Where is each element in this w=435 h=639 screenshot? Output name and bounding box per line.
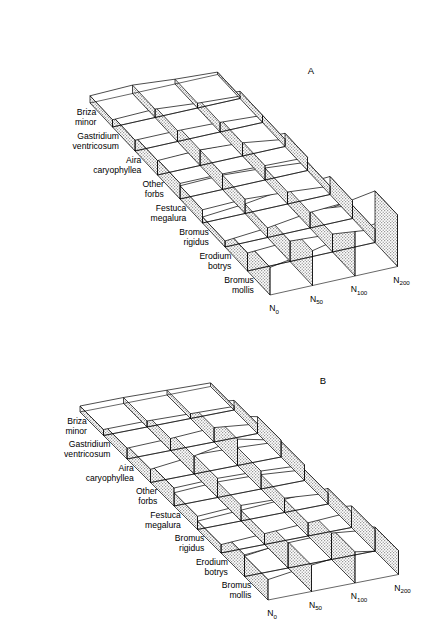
axis-tick-n100: N100: [351, 591, 368, 603]
species-label-bromus-mollis: Bromusmollis: [224, 275, 254, 295]
species-label-line1: Briza: [77, 107, 97, 117]
species-label-line1: Aira: [119, 463, 135, 473]
species-label-line1: Other: [136, 486, 158, 496]
species-label-line1: Festuca: [150, 510, 181, 520]
species-label-line1: Erodium: [199, 251, 231, 261]
species-label-bromus-mollis: Bromusmollis: [222, 580, 252, 600]
axis-tick-n200: N200: [394, 583, 411, 595]
axis-tick-n0: N0: [267, 608, 277, 620]
species-label-line1: Bromus: [222, 580, 252, 590]
band-baseline: [270, 267, 398, 296]
species-label-line2: rigidus: [184, 237, 209, 247]
panel-letter-a: A: [308, 65, 315, 76]
species-label-line2: rigidus: [179, 543, 204, 553]
species-label-erodium-botrys: Erodiumbotrys: [199, 251, 231, 271]
species-label-bromus-rigidus: Bromusrigidus: [175, 533, 205, 553]
panel-b-chart: BromusmollisErodiumbotrysBromusrigidusFe…: [0, 330, 435, 639]
species-label-line2: caryophyllea: [86, 473, 134, 483]
species-label-other-forbs: Otherforbs: [136, 486, 158, 506]
species-label-erodium-botrys: Erodiumbotrys: [196, 557, 228, 577]
species-label-aira-caryophyllea: Airacaryophyllea: [93, 155, 141, 175]
species-label-festuca-megalura: Festucamegalura: [145, 510, 181, 530]
species-label-line1: Gastridium: [77, 131, 119, 141]
species-label-line2: mollis: [232, 285, 254, 295]
species-label-line1: Bromus: [179, 227, 209, 237]
panel-a: BromusmollisErodiumbotrysBromusrigidusFe…: [0, 0, 435, 330]
species-label-briza-minor: Brizaminor: [75, 107, 97, 127]
axis-tick-subscript: 200: [400, 587, 411, 594]
axis-tick-n50: N50: [310, 294, 324, 306]
species-label-bromus-rigidus: Bromusrigidus: [179, 227, 209, 247]
axis-tick-subscript: 0: [275, 308, 279, 315]
species-label-aira-caryophyllea: Airacaryophyllea: [86, 463, 134, 483]
species-label-line2: forbs: [138, 496, 157, 506]
axis-tick-subscript: 0: [273, 613, 277, 620]
species-label-line1: Other: [142, 179, 164, 189]
axis-tick-subscript: 100: [357, 596, 368, 603]
axis-tick-n50: N50: [309, 600, 323, 612]
band-cross-section: [375, 191, 398, 267]
band-cross-section: [375, 527, 399, 575]
species-label-gastridium-ventricosum: Gastridiumventricosum: [64, 439, 110, 459]
panel-letter-b: B: [320, 375, 326, 386]
species-label-line2: forbs: [145, 189, 164, 199]
band-baseline: [268, 575, 399, 601]
species-label-line1: Erodium: [196, 557, 228, 567]
species-label-line1: Bromus: [175, 533, 205, 543]
axis-tick-n200: N200: [393, 275, 410, 287]
axis-tick-n100: N100: [351, 284, 368, 296]
species-label-line1: Festuca: [156, 203, 187, 213]
species-label-line2: megalura: [145, 520, 181, 530]
panel-a-bands: [90, 72, 398, 295]
species-label-line2: minor: [65, 426, 87, 436]
axis-tick-subscript: 50: [315, 604, 322, 611]
axis-tick-subscript: 50: [316, 298, 323, 305]
species-label-line2: botrys: [208, 261, 231, 271]
species-label-line2: mollis: [229, 590, 251, 600]
panel-a-chart: BromusmollisErodiumbotrysBromusrigidusFe…: [0, 0, 435, 330]
species-label-other-forbs: Otherforbs: [142, 179, 164, 199]
panel-b: BromusmollisErodiumbotrysBromusrigidusFe…: [0, 330, 435, 639]
species-label-festuca-megalura: Festucamegalura: [151, 203, 187, 223]
axis-tick-subscript: 100: [357, 289, 368, 296]
species-label-line2: botrys: [204, 567, 227, 577]
panel-a-axis-ticks: N0N50N100N200: [269, 275, 410, 315]
axis-tick-n0: N0: [269, 303, 279, 315]
species-label-line2: ventricosum: [64, 449, 110, 459]
species-label-line2: megalura: [151, 213, 187, 223]
axis-tick-subscript: 200: [399, 279, 410, 286]
species-label-line1: Briza: [67, 416, 87, 426]
species-label-line1: Gastridium: [69, 439, 111, 449]
species-label-briza-minor: Brizaminor: [65, 416, 87, 436]
species-composition-figure: BromusmollisErodiumbotrysBromusrigidusFe…: [0, 0, 435, 639]
species-label-line2: ventricosum: [73, 141, 119, 151]
panel-b-bands: [80, 383, 399, 600]
species-label-line1: Aira: [126, 155, 142, 165]
panel-b-axis-ticks: N0N50N100N200: [267, 583, 411, 620]
species-label-line2: minor: [75, 117, 97, 127]
species-label-line1: Bromus: [224, 275, 254, 285]
species-label-line2: caryophyllea: [93, 165, 141, 175]
species-label-gastridium-ventricosum: Gastridiumventricosum: [73, 131, 119, 151]
